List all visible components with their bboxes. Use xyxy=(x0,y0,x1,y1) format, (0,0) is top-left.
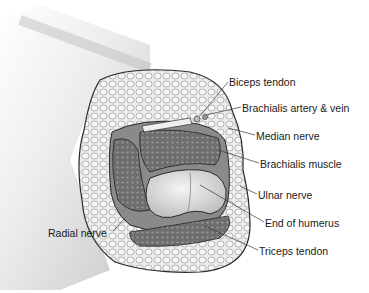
label-ulnar-nerve: Ulnar nerve xyxy=(258,189,312,201)
label-triceps-tendon: Triceps tendon xyxy=(259,245,328,257)
label-radial-nerve: Radial nerve xyxy=(48,227,107,239)
humerus-end xyxy=(146,170,226,218)
label-median-nerve: Median nerve xyxy=(256,130,320,142)
label-brachialis-muscle: Brachialis muscle xyxy=(260,158,342,170)
label-end-of-humerus: End of humerus xyxy=(265,217,339,229)
label-biceps-tendon: Biceps tendon xyxy=(229,76,296,88)
anatomy-diagram: Biceps tendon Brachialis artery & vein M… xyxy=(0,0,369,293)
label-brachialis-artery-vein: Brachialis artery & vein xyxy=(242,102,349,114)
